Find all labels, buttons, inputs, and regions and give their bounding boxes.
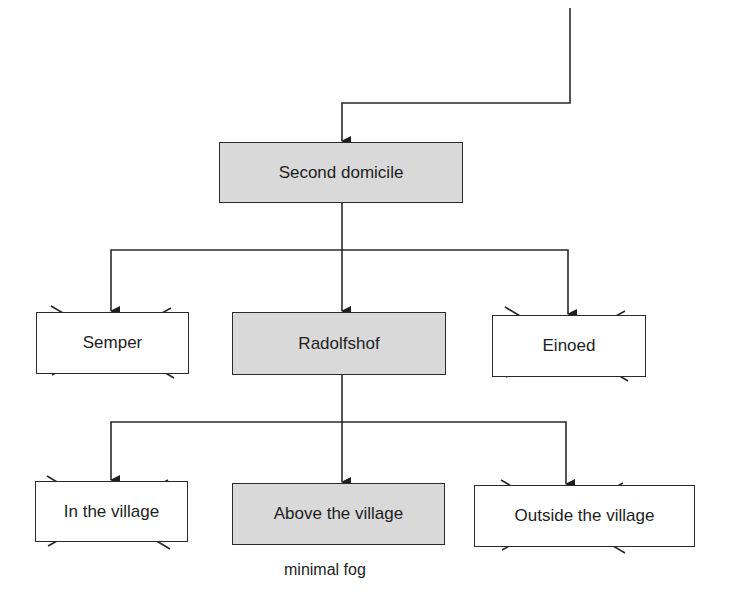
node-label: Einoed <box>543 336 596 356</box>
connector-radolfshof-left <box>111 422 342 480</box>
node-radolfshof: Radolfshof <box>232 312 446 375</box>
connector-root-right <box>342 250 568 314</box>
node-einoed: Einoed <box>492 315 646 377</box>
connector-radolfshof-right <box>342 422 566 484</box>
incoming-connector <box>342 8 570 141</box>
node-in-the-village: In the village <box>35 481 188 542</box>
node-label: Semper <box>83 333 143 353</box>
node-label: Outside the village <box>515 506 655 526</box>
note-minimal-fog: minimal fog <box>284 561 366 579</box>
node-label: Above the village <box>274 504 403 524</box>
node-second-domicile: Second domicile <box>219 142 463 203</box>
node-label: Second domicile <box>279 163 404 183</box>
node-label: Radolfshof <box>298 334 379 354</box>
node-semper: Semper <box>36 312 189 374</box>
node-label: In the village <box>64 502 159 522</box>
node-above-the-village: Above the village <box>232 483 445 545</box>
connector-root-left <box>111 250 342 311</box>
node-outside-the-village: Outside the village <box>474 485 695 547</box>
